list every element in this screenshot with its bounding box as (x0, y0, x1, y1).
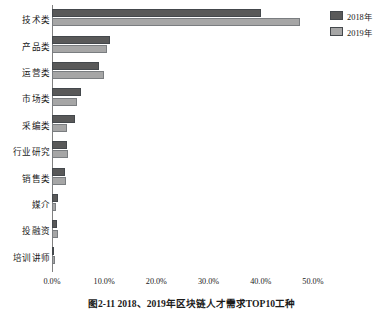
category-label: 技术类 (0, 13, 50, 25)
bar-2019 (52, 203, 56, 211)
bar-2018 (52, 168, 65, 176)
legend-swatch-icon (330, 11, 343, 20)
legend-label: 2018年 (347, 10, 372, 22)
plot-area (52, 6, 339, 270)
bar-2018 (52, 62, 99, 70)
x-tick-label: 30.0% (198, 277, 219, 286)
x-tick-label: 0.0% (43, 277, 60, 286)
x-axis: 0.0%10.0%20.0%30.0%40.0%50.0% (52, 272, 339, 294)
bar-2018 (52, 220, 57, 228)
bar-2018 (52, 9, 261, 17)
chart-legend: 2018年2019年 (330, 9, 382, 41)
bar-2018 (52, 115, 75, 123)
category-label: 采编类 (0, 119, 50, 131)
category-label: 运营类 (0, 66, 50, 78)
bar-2019 (52, 177, 66, 185)
category-label: 媒介 (0, 198, 50, 210)
x-tick-label: 10.0% (94, 277, 115, 286)
category-label: 产品类 (0, 40, 50, 52)
bar-2019 (52, 98, 77, 106)
bar-2019 (52, 256, 55, 264)
bar-group (52, 164, 339, 190)
category-label: 培训讲师 (0, 251, 50, 263)
bar-2018 (52, 88, 81, 96)
figure-caption: 图2-11 2018、2019年区块链人才需求TOP10工种 (0, 296, 383, 310)
legend-item[interactable]: 2019年 (330, 25, 382, 38)
bar-2018 (52, 194, 58, 202)
bar-group (52, 244, 339, 270)
bar-2019 (52, 71, 104, 79)
bar-group (52, 191, 339, 217)
x-tick-label: 40.0% (250, 277, 271, 286)
category-label: 市场类 (0, 92, 50, 104)
category-label: 行业研究 (0, 145, 50, 157)
x-tick-label: 50.0% (302, 277, 323, 286)
x-tick-label: 20.0% (146, 277, 167, 286)
bar-group (52, 112, 339, 138)
bar-group (52, 85, 339, 111)
bar-group (52, 138, 339, 164)
bar-group (52, 32, 339, 58)
bar-2018 (52, 141, 67, 149)
bar-2018 (52, 36, 110, 44)
legend-item[interactable]: 2018年 (330, 9, 382, 22)
bar-group (52, 6, 339, 32)
bar-2019 (52, 18, 300, 26)
legend-label: 2019年 (347, 26, 372, 38)
category-label: 销售类 (0, 172, 50, 184)
bar-2019 (52, 45, 107, 53)
legend-swatch-icon (330, 27, 343, 36)
bar-2019 (52, 124, 67, 132)
bar-2018 (52, 247, 54, 255)
bar-2019 (52, 150, 68, 158)
category-label: 投融资 (0, 224, 50, 236)
bar-group (52, 217, 339, 243)
bar-2019 (52, 230, 58, 238)
bar-group (52, 59, 339, 85)
